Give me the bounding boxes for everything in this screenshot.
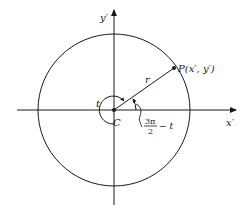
center-label: C	[113, 117, 121, 128]
fraction-numerator: 3π	[145, 117, 155, 126]
rotation-diagram: y′ x′ P(x′, y′) r t C 3π 2 − t	[0, 0, 247, 216]
point-label: P(x′, y′)	[177, 63, 215, 74]
angle-complement-arc	[133, 99, 136, 110]
point-p-dot	[172, 66, 176, 70]
x-axis-label: x′	[226, 117, 235, 128]
fraction-rest: − t	[159, 121, 173, 131]
angle-t-label: t	[96, 98, 101, 109]
y-axis-label: y′	[99, 12, 109, 23]
center-dot	[112, 108, 116, 112]
radius-line	[114, 68, 174, 110]
fraction-denominator: 2	[148, 127, 153, 136]
label-leader	[136, 104, 142, 127]
radius-label: r	[145, 74, 151, 85]
